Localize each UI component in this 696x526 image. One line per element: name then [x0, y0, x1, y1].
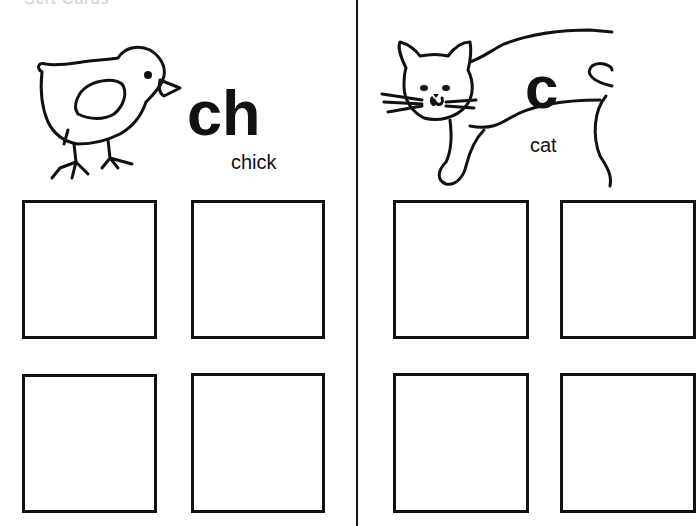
panel-divider	[356, 0, 358, 526]
answer-box[interactable]	[560, 200, 696, 339]
answer-box[interactable]	[191, 373, 325, 513]
answer-box[interactable]	[560, 373, 696, 513]
chick-illustration-icon	[34, 44, 184, 189]
clipped-header-text: Scrt Cards	[24, 0, 110, 8]
panel-word: chick	[231, 152, 277, 172]
answer-box[interactable]	[393, 200, 529, 339]
cat-illustration-icon	[380, 26, 610, 191]
answer-box[interactable]	[22, 200, 157, 339]
answer-box[interactable]	[191, 200, 325, 339]
answer-box[interactable]	[22, 374, 157, 513]
panel-word: cat	[530, 135, 557, 155]
panel-letter: ch	[187, 82, 261, 145]
panel-letter: c	[525, 58, 558, 118]
answer-box[interactable]	[393, 373, 529, 513]
